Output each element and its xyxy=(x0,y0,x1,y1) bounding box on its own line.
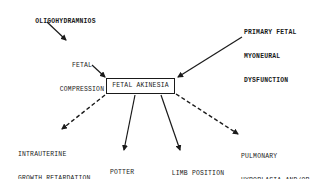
node-label-line: COMPRESSION xyxy=(52,86,112,94)
node-label: FETAL AKINESIA xyxy=(112,82,169,90)
node-label-line: MYONEURAL xyxy=(244,53,296,61)
node-label: OLIGOHYDRAMNIOS xyxy=(35,18,96,25)
node-intrauterine-growth-retardation: INTRAUTERINE GROWTH RETARDATION xyxy=(18,135,91,179)
node-fetal-akinesia: FETAL AKINESIA xyxy=(106,78,175,94)
node-label-line: LIMB POSITION xyxy=(168,170,228,178)
node-potter-facies: POTTER FACIES xyxy=(110,153,138,179)
arrow-akinesia-to-pulmonary xyxy=(176,94,238,134)
node-label-line: PRIMARY FETAL xyxy=(244,29,296,37)
arrow-myoneural-to-akinesia xyxy=(178,37,242,77)
arrow-akinesia-to-potter xyxy=(124,95,135,150)
diagram-canvas: OLIGOHYDRAMNIOS FETAL COMPRESSION PRIMAR… xyxy=(0,0,329,179)
node-label-line: INTRAUTERINE xyxy=(18,151,91,159)
node-limb-position-defects: LIMB POSITION DEFECTS xyxy=(168,154,228,179)
node-label-line: PULMONARY xyxy=(241,153,310,161)
node-pulmonary-hypoplasia-funnel-chest: PULMONARY HYPOPLASIA AND/OR FUNNEL CHEST xyxy=(241,137,310,179)
node-primary-myoneural-dysfunction: PRIMARY FETAL MYONEURAL DYSFUNCTION xyxy=(244,13,296,101)
arrow-akinesia-to-limb xyxy=(161,95,180,150)
node-fetal-compression: FETAL COMPRESSION xyxy=(52,46,112,110)
node-label-line: POTTER xyxy=(110,169,138,177)
node-label-line: DYSFUNCTION xyxy=(244,77,296,85)
node-label-line: FETAL xyxy=(52,62,112,70)
node-label-line: GROWTH RETARDATION xyxy=(18,175,91,179)
node-oligohydramnios: OLIGOHYDRAMNIOS xyxy=(19,10,96,34)
node-label-line: HYPOPLASIA AND/OR xyxy=(241,177,310,179)
